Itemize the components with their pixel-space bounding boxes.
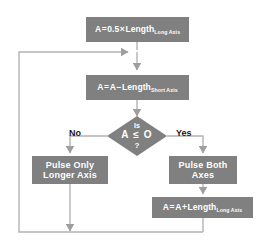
- init-subscript: Long Axis: [154, 29, 180, 35]
- edge-label-no: No: [69, 128, 81, 138]
- pulse-both-line-2: Axes: [192, 170, 214, 180]
- node-subtract-formula: A=A−LengthShort Axis: [97, 83, 177, 93]
- subtract-lhs: A: [97, 82, 103, 92]
- init-term: Length: [125, 24, 154, 34]
- decision-text: Is A ≤ O ?: [107, 116, 167, 156]
- init-coefficient: 0.5: [107, 24, 119, 34]
- add-term: Length: [187, 202, 216, 212]
- node-pulse-longer-axis: Pulse Only Longer Axis: [32, 156, 108, 184]
- pulse-longer-line-1: Pulse Only: [46, 160, 95, 170]
- node-subtract-short-axis: A=A−LengthShort Axis: [86, 75, 189, 100]
- pulse-longer-line-2: Longer Axis: [43, 170, 97, 180]
- edge-decision-no: [70, 136, 107, 153]
- node-init-assignment: A=0.5×LengthLong Axis: [86, 17, 189, 42]
- pulse-both-line-1: Pulse Both: [178, 160, 227, 170]
- edge-decision-yes: [167, 136, 203, 153]
- node-pulse-both-axes: Pulse Both Axes: [169, 156, 237, 184]
- node-add-formula: A=A+LengthLong Axis: [163, 203, 242, 213]
- add-subscript: Long Axis: [216, 207, 242, 213]
- node-decision-a-le-zero: Is A ≤ O ?: [107, 116, 167, 156]
- subtract-term: Length: [122, 82, 151, 92]
- subtract-subscript: Short Axis: [151, 87, 178, 93]
- decision-line-2: A ≤ O: [121, 129, 153, 142]
- decision-line-1: Is: [134, 122, 140, 129]
- decision-line-3: ?: [135, 142, 140, 150]
- flowchart-diagram: A=0.5×LengthLong Axis A=A−LengthShort Ax…: [0, 0, 268, 241]
- subtract-operand: A: [110, 82, 116, 92]
- node-add-long-axis: A=A+LengthLong Axis: [152, 197, 253, 218]
- node-init-formula: A=0.5×LengthLong Axis: [95, 25, 180, 35]
- edge-label-yes: Yes: [176, 128, 192, 138]
